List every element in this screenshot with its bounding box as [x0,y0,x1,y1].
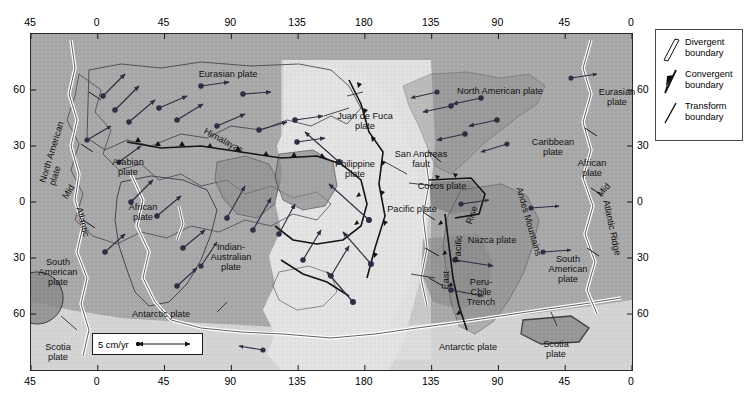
legend-item-transform: Transform boundary [661,100,738,127]
axis-bottom-tick-4: 135 [288,375,306,387]
axis-top-tick-7: 90 [492,16,504,28]
axis-right-tick-0: 60 [637,83,649,95]
axis-left-tick-4: 60 [10,307,25,319]
axis-right-tick-2: 0 [637,195,643,207]
scale-bar: 5 cm/yr [92,333,203,355]
axis-top-tick-5: 180 [355,16,373,28]
axis-top-tick-8: 45 [558,16,570,28]
axis-top-tick-4: 135 [288,16,306,28]
transform-boundary-icon [661,100,681,127]
axis-top-tick-3: 90 [224,16,236,28]
frame-ticks [31,34,632,370]
axis-bottom-tick-5: 180 [355,375,373,387]
world-plate-map [30,33,633,371]
divergent-boundary-icon [661,36,681,63]
scale-bar-label: 5 cm/yr [98,339,129,350]
legend-item-convergent: Convergent boundary [661,68,738,95]
axis-left-tick-3: 30 [10,251,25,263]
axis-bottom-tick-3: 90 [224,375,236,387]
convergent-boundary-icon [661,68,681,95]
legend-label-convergent: Convergent boundary [685,68,733,90]
axis-bottom-tick-0: 45 [24,375,36,387]
axis-right-tick-3: 30 [637,251,649,263]
axis-bottom-tick-2: 45 [158,375,170,387]
axis-bottom-tick-1: 0 [94,375,100,387]
axis-top-tick-9: 0 [628,16,634,28]
axis-left-tick-2: 0 [10,195,25,207]
axis-top-tick-0: 45 [24,16,36,28]
legend-label-transform: Transform boundary [685,100,727,122]
axis-left-tick-1: 30 [10,139,25,151]
legend-label-divergent: Divergent boundary [685,36,724,58]
legend-item-divergent: Divergent boundary [661,36,738,63]
axis-bottom-tick-9: 0 [628,375,634,387]
axis-bottom-tick-8: 45 [558,375,570,387]
axis-bottom-tick-7: 90 [492,375,504,387]
axis-top-tick-6: 135 [422,16,440,28]
axis-left-tick-0: 60 [10,83,25,95]
axis-right-tick-4: 60 [637,307,649,319]
axis-top-tick-1: 0 [94,16,100,28]
scale-bar-arrow [133,338,195,350]
plate-tectonics-figure: North American plate Eurasian plate Nort… [0,0,750,404]
axis-top-tick-2: 45 [158,16,170,28]
axis-bottom-tick-6: 135 [422,375,440,387]
legend-box: Divergent boundary Convergent boundary T… [655,29,743,141]
axis-right-tick-1: 30 [637,139,649,151]
